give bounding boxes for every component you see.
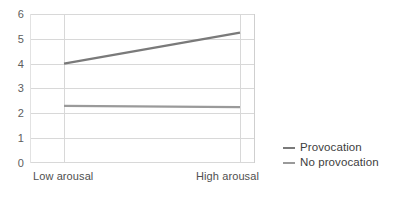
line-chart-figure: 6 5 4 3 2 1 0 Low arousal High arousal P… xyxy=(0,0,401,202)
series-line-no-provocation xyxy=(64,106,240,107)
chart-legend: Provocation No provocation xyxy=(283,140,399,170)
legend-item-provocation: Provocation xyxy=(283,140,399,155)
x-tick-low-arousal: Low arousal xyxy=(33,170,93,182)
legend-label-no-provocation: No provocation xyxy=(300,156,379,169)
series-line-provocation xyxy=(64,33,240,64)
x-tick-high-arousal: High arousal xyxy=(196,170,259,182)
legend-label-provocation: Provocation xyxy=(300,141,362,154)
legend-line-swatch-provocation-icon xyxy=(283,147,295,149)
legend-item-no-provocation: No provocation xyxy=(283,155,399,170)
legend-line-swatch-no-provocation-icon xyxy=(283,162,295,164)
